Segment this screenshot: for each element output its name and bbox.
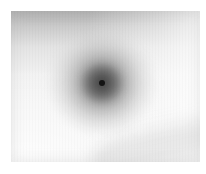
figure-root bbox=[0, 0, 206, 174]
dark-nucleus-point bbox=[99, 80, 105, 86]
image-frame bbox=[11, 11, 200, 162]
